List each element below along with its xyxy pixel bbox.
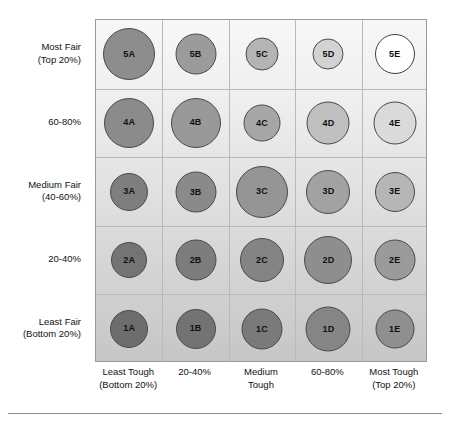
bubble-4b[interactable]: 4B <box>171 98 221 148</box>
bubble-2a[interactable]: 2A <box>111 242 147 278</box>
bubble-4a[interactable]: 4A <box>104 98 154 148</box>
bubble-label: 3E <box>389 187 400 196</box>
x-axis: Least Tough(Bottom 20%)20-40%MediumTough… <box>95 366 427 400</box>
bubble-3e[interactable]: 3E <box>375 172 415 212</box>
bubble-label: 3B <box>190 187 202 196</box>
bubble-label: 2A <box>123 256 135 265</box>
bubble-label: 5B <box>190 50 202 59</box>
x-tick-label-line: Most Tough <box>348 366 440 379</box>
bubble-label: 4A <box>123 118 135 127</box>
y-axis: Most Fair(Top 20%)60-80%Medium Fair(40-6… <box>0 19 88 362</box>
bubble-matrix-figure: 5A5B5C5D5E4A4B4C4D4E3A3B3C3D3E2A2B2C2D2E… <box>0 0 450 429</box>
bubble-5d[interactable]: 5D <box>313 39 344 70</box>
bubble-2c[interactable]: 2C <box>240 238 284 282</box>
bubble-label: 2D <box>322 256 334 265</box>
bubble-5a[interactable]: 5A <box>103 28 155 80</box>
bubble-label: 4D <box>322 118 334 127</box>
bubble-label: 4E <box>389 118 400 127</box>
bubble-5e[interactable]: 5E <box>375 34 415 74</box>
y-tick-label-line: Medium Fair <box>0 178 81 191</box>
bubble-label: 1E <box>389 324 400 333</box>
y-tick-label-line: 20-40% <box>0 253 81 266</box>
bubble-label: 1C <box>256 324 268 333</box>
bubble-5b[interactable]: 5B <box>175 34 216 75</box>
y-tick-label-line: 60-80% <box>0 116 81 129</box>
footer-rule <box>8 413 442 414</box>
bubble-1e[interactable]: 1E <box>375 309 414 348</box>
bubble-label: 5A <box>123 50 135 59</box>
bubble-label: 4B <box>190 118 202 127</box>
x-tick-label-line: (Bottom 20%) <box>82 379 174 392</box>
bubble-label: 2E <box>389 256 400 265</box>
x-tick-label: Most Tough(Top 20%) <box>348 366 440 391</box>
x-tick-label-line: (Top 20%) <box>348 379 440 392</box>
y-tick-label-line: (40-60%) <box>0 191 81 204</box>
bubble-4c[interactable]: 4C <box>244 104 281 141</box>
bubble-1a[interactable]: 1A <box>110 310 148 348</box>
bubble-1d[interactable]: 1D <box>306 306 351 351</box>
bubble-3c[interactable]: 3C <box>236 166 288 218</box>
bubble-layer: 5A5B5C5D5E4A4B4C4D4E3A3B3C3D3E2A2B2C2D2E… <box>96 20 426 361</box>
bubble-label: 3A <box>123 187 135 196</box>
bubble-label: 5D <box>322 50 334 59</box>
y-tick-label: 60-80% <box>0 116 81 129</box>
bubble-label: 1A <box>123 324 135 333</box>
bubble-label: 3D <box>322 187 334 196</box>
bubble-label: 1D <box>322 324 334 333</box>
y-tick-label-line: Most Fair <box>0 41 81 54</box>
y-tick-label: Medium Fair(40-60%) <box>0 178 81 203</box>
bubble-4d[interactable]: 4D <box>307 101 350 144</box>
bubble-1c[interactable]: 1C <box>242 308 283 349</box>
y-tick-label-line: Least Fair <box>0 315 81 328</box>
y-tick-label-line: (Top 20%) <box>0 53 81 66</box>
plot-area: 5A5B5C5D5E4A4B4C4D4E3A3B3C3D3E2A2B2C2D2E… <box>95 19 427 362</box>
x-tick-label-line: Tough <box>215 379 307 392</box>
bubble-2e[interactable]: 2E <box>374 240 415 281</box>
bubble-2d[interactable]: 2D <box>304 236 352 284</box>
bubble-label: 2C <box>256 256 268 265</box>
bubble-3a[interactable]: 3A <box>110 173 148 211</box>
y-tick-label: Most Fair(Top 20%) <box>0 41 81 66</box>
y-tick-label-line: (Bottom 20%) <box>0 328 81 341</box>
bubble-label: 5E <box>389 50 400 59</box>
y-tick-label: 20-40% <box>0 253 81 266</box>
bubble-2b[interactable]: 2B <box>175 240 216 281</box>
bubble-label: 1B <box>190 324 202 333</box>
bubble-5c[interactable]: 5C <box>246 38 279 71</box>
y-tick-label: Least Fair(Bottom 20%) <box>0 315 81 340</box>
bubble-label: 5C <box>256 50 268 59</box>
bubble-label: 2B <box>190 256 202 265</box>
bubble-3d[interactable]: 3D <box>306 170 350 214</box>
bubble-3b[interactable]: 3B <box>175 171 216 212</box>
bubble-label: 4C <box>256 118 268 127</box>
bubble-1b[interactable]: 1B <box>176 309 216 349</box>
bubble-label: 3C <box>256 187 268 196</box>
bubble-4e[interactable]: 4E <box>373 101 416 144</box>
